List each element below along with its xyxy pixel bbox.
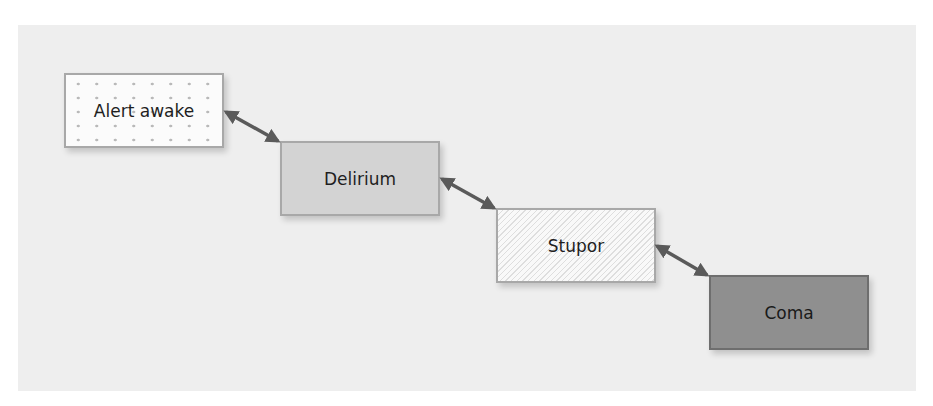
node-label: Delirium bbox=[324, 169, 396, 189]
node-delirium: Delirium bbox=[280, 141, 440, 216]
node-coma: Coma bbox=[709, 275, 869, 350]
node-stupor: Stupor bbox=[496, 208, 656, 283]
node-label: Alert awake bbox=[94, 101, 194, 121]
node-label: Stupor bbox=[548, 236, 604, 256]
node-alert-awake: Alert awake bbox=[64, 73, 224, 148]
node-label: Coma bbox=[764, 303, 813, 323]
